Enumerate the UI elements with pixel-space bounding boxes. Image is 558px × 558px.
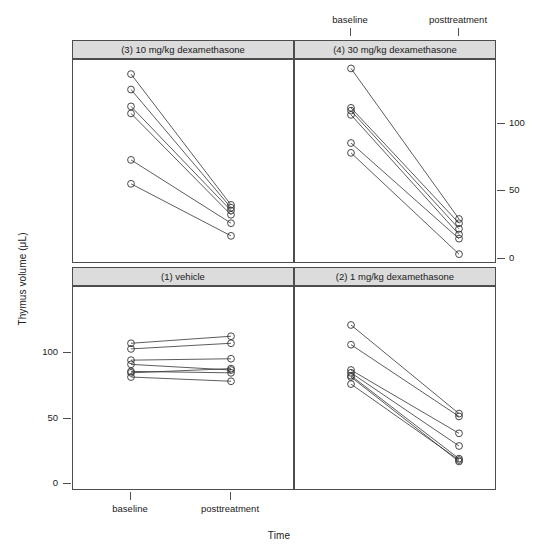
data-point [128, 103, 135, 110]
series-line [351, 325, 459, 414]
panel-30mgkg-plot [295, 60, 496, 263]
series-line [351, 345, 459, 417]
series-line [351, 376, 459, 459]
data-point [128, 110, 135, 117]
panel-1mgkg-plot [295, 287, 496, 490]
panel-vehicle-plot [73, 287, 294, 490]
panel-10mgkg [72, 59, 294, 263]
x-tick-bottom-posttreatment [230, 492, 231, 500]
x-tick-label-bottom-baseline: baseline [112, 503, 147, 514]
x-tick-bottom-baseline [130, 492, 131, 500]
y-tick-label-right-0: 0 [509, 252, 514, 263]
y-tick-label-left-100: 100 [38, 346, 58, 357]
series-line [351, 373, 459, 446]
series-line [131, 113, 231, 214]
data-point [128, 156, 135, 163]
series-line [351, 68, 459, 219]
data-point [228, 220, 235, 227]
series-line [131, 343, 231, 349]
series-line [131, 106, 231, 210]
y-tick-left-50 [63, 418, 71, 419]
strip-panel-1: (1) vehicle [72, 267, 294, 286]
data-point [456, 251, 463, 258]
series-line [131, 359, 231, 360]
figure-caption [8, 548, 548, 557]
series-line [351, 108, 459, 223]
x-tick-top-baseline [350, 28, 351, 36]
data-point [348, 341, 355, 348]
series-line [131, 336, 231, 343]
data-point [456, 430, 463, 437]
x-axis-label: Time [268, 530, 290, 541]
y-tick-right-50 [497, 190, 505, 191]
y-tick-label-left-50: 50 [38, 412, 58, 423]
y-tick-label-right-50: 50 [509, 184, 520, 195]
panel-1mgkg [294, 286, 496, 490]
y-axis-label: Thymus volume (μL) [17, 232, 28, 325]
y-tick-right-100 [497, 123, 505, 124]
y-tick-right-0 [497, 258, 505, 259]
series-line [351, 370, 459, 433]
y-tick-label-right-100: 100 [509, 117, 525, 128]
data-point [228, 232, 235, 239]
series-line [351, 143, 459, 239]
data-point [348, 65, 355, 72]
series-line [351, 384, 459, 460]
y-tick-label-left-0: 0 [38, 477, 58, 488]
x-tick-label-top-posttreatment: posttreatment [429, 14, 487, 25]
series-line [131, 90, 231, 208]
y-tick-left-0 [63, 483, 71, 484]
x-tick-top-posttreatment [458, 28, 459, 36]
y-tick-left-100 [63, 352, 71, 353]
panel-10mgkg-plot [73, 60, 294, 263]
x-tick-label-top-baseline: baseline [332, 14, 367, 25]
x-tick-label-bottom-posttreatment: posttreatment [201, 503, 259, 514]
series-line [131, 74, 231, 205]
panel-30mgkg [294, 59, 496, 263]
strip-panel-2: (2) 1 mg/kg dexamethasone [294, 267, 496, 286]
data-point [228, 211, 235, 218]
series-line [351, 115, 459, 235]
strip-panel-3: (3) 10 mg/kg dexamethasone [72, 40, 294, 59]
strip-panel-4: (4) 30 mg/kg dexamethasone [294, 40, 496, 59]
series-line [351, 111, 459, 229]
figure-root: Thymus volume (μL) Time baseline posttre… [0, 0, 558, 558]
data-point [456, 235, 463, 242]
series-line [351, 153, 459, 254]
data-point [348, 149, 355, 156]
series-line [131, 377, 231, 381]
panel-vehicle [72, 286, 294, 490]
